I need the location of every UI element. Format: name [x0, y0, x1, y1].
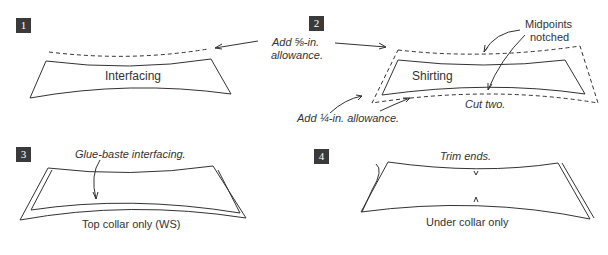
step-badge-2: 2 [309, 16, 324, 31]
step-badge-1: 1 [16, 18, 31, 33]
midpoints-label-1: Midpoints [525, 18, 572, 30]
under-collar-caption: Under collar only [426, 216, 509, 228]
under-collar-piece [361, 162, 590, 219]
cut-two-label: Cut two. [465, 98, 505, 110]
midpoints-label-2: notched [530, 31, 569, 43]
trim-right [562, 163, 594, 218]
add-small-allowance: Add ¼-in. allowance. [297, 112, 399, 124]
step-badge-3: 3 [16, 147, 31, 162]
interfacing-dashed-allowance [49, 49, 208, 56]
add-large-allowance-1: Add ⅝-in. [272, 36, 319, 48]
top-collar-caption: Top collar only (WS) [82, 218, 180, 230]
step-badge-4: 4 [314, 149, 329, 164]
top-collar-piece [20, 166, 246, 220]
add-large-allowance-2: allowance. [271, 49, 323, 61]
glue-baste-label: Glue-baste interfacing. [75, 148, 186, 160]
shirting-label: Shirting [412, 69, 453, 83]
top-collar-interfacing [31, 170, 240, 213]
shirting-dashed-allowance [372, 46, 598, 103]
interfacing-label: Interfacing [105, 69, 161, 83]
trim-ends-label: Trim ends. [440, 150, 491, 162]
